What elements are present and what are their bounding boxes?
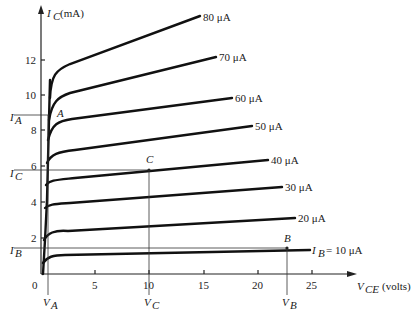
y-axis-label-unit: (mA) (60, 7, 84, 20)
x-axis-label-unit: (volts) (382, 280, 411, 293)
x-tick-5: 5 (92, 279, 98, 291)
point-c-marker (147, 168, 150, 171)
y-tick-8: 8 (31, 124, 37, 136)
x-axis-label-main: V (357, 280, 365, 292)
x-ticks: 0 5 10 15 20 25 (32, 270, 318, 291)
characteristic-curves-diagram: I C (mA) 2 4 6 8 10 12 0 5 10 15 20 25 V… (0, 0, 414, 322)
point-b-v-label-sub: B (290, 299, 297, 311)
point-b-i-label-sub: B (15, 247, 22, 259)
x-axis-arrow-icon (347, 271, 357, 277)
x-tick-15: 15 (198, 279, 210, 291)
x-tick-25: 25 (306, 279, 318, 291)
y-axis-arrow-icon (38, 5, 44, 14)
curve-30uA (45, 187, 282, 208)
y-tick-10: 10 (25, 89, 37, 101)
y-tick-2: 2 (31, 232, 37, 244)
curve-label-60uA: 60 μA (235, 92, 263, 104)
curve-label-80uA: 80 μA (203, 11, 231, 23)
y-tick-4: 4 (31, 196, 37, 208)
y-ticks: 2 4 6 8 10 12 (25, 54, 45, 244)
x-tick-20: 20 (252, 279, 264, 291)
x-tick-0: 0 (32, 279, 38, 291)
curve-80uA (50, 16, 200, 98)
curve-label-10uA: = 10 μA (326, 244, 363, 256)
curve-label-20uA: 20 μA (298, 212, 326, 224)
curve-60uA (48, 98, 232, 140)
curve-label-10uA-prefix-sub: B (318, 247, 325, 259)
y-tick-12: 12 (25, 54, 36, 66)
point-a-v-label-main: V (43, 296, 51, 308)
curve-label-50uA: 50 μA (255, 120, 283, 132)
curve-20uA (44, 218, 295, 240)
point-c-v-label-main: V (144, 296, 152, 308)
point-b-v-label-main: V (282, 296, 290, 308)
point-a-v-label-sub: A (50, 299, 58, 311)
point-c-v-label-sub: C (152, 299, 160, 311)
point-b-label: B (284, 232, 291, 244)
curve-label-10uA-prefix-main: I (311, 244, 317, 256)
curve-10uA (43, 250, 310, 263)
x-axis-label-sub: CE (365, 283, 379, 295)
curve-40uA (46, 160, 268, 185)
point-b-marker (285, 246, 288, 249)
point-a-label: A (56, 107, 64, 119)
curve-label-40uA: 40 μA (271, 154, 299, 166)
y-axis-label-main: I (46, 7, 52, 19)
saturation-edge (43, 80, 50, 274)
point-c-label: C (146, 153, 154, 165)
point-a-i-label-sub: A (14, 114, 22, 126)
curve-label-70uA: 70 μA (219, 51, 247, 63)
point-c-i-label-sub: C (15, 170, 23, 182)
curve-label-30uA: 30 μA (285, 181, 313, 193)
